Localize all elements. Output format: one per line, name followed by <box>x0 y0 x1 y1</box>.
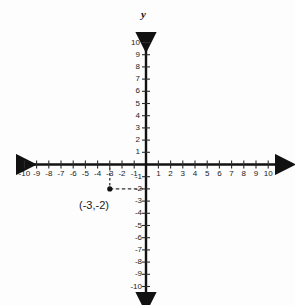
y-tick-label: -9 <box>135 270 142 278</box>
y-tick-label: 7 <box>136 75 140 83</box>
x-tick-label: -2 <box>118 170 125 178</box>
y-tick-label: -6 <box>135 234 142 242</box>
y-tick-label: -8 <box>135 258 142 266</box>
y-tick-label: 9 <box>136 51 140 59</box>
x-tick-label: 5 <box>205 170 209 178</box>
x-tick-label: 1 <box>156 170 160 178</box>
plotted-point-marker <box>107 186 112 191</box>
x-tick-label: 6 <box>217 170 221 178</box>
point-coordinate-label: (-3,-2) <box>79 199 109 211</box>
y-tick-label: 2 <box>136 136 140 144</box>
x-tick-label: 2 <box>168 170 172 178</box>
y-axis-label: y <box>141 8 146 20</box>
y-tick-label: 4 <box>136 112 140 120</box>
x-tick-label: -3 <box>106 170 113 178</box>
coordinate-plane-figure: y x -10 -9 -8 -7 -6 -5 -4 -3 -2 -1 1 2 3… <box>0 0 295 305</box>
x-tick-label: -5 <box>82 170 89 178</box>
x-tick-label: 8 <box>242 170 246 178</box>
y-tick-label: -4 <box>135 209 142 217</box>
graph-svg <box>0 0 295 305</box>
y-tick-label: 8 <box>136 63 140 71</box>
y-tick-label: -7 <box>135 246 142 254</box>
x-tick-label: -8 <box>45 170 52 178</box>
y-tick-label: 6 <box>136 87 140 95</box>
x-tick-label: 4 <box>193 170 197 178</box>
x-tick-label: -6 <box>70 170 77 178</box>
y-tick-label: -5 <box>135 222 142 230</box>
x-tick-label: 7 <box>229 170 233 178</box>
y-tick-label: 5 <box>136 100 140 108</box>
y-tick-label: 1 <box>136 148 140 156</box>
x-tick-label: 3 <box>181 170 185 178</box>
x-tick-label: -7 <box>57 170 64 178</box>
y-tick-label: -2 <box>135 185 142 193</box>
x-tick-label: 9 <box>254 170 258 178</box>
y-tick-label: -1 <box>135 173 142 181</box>
x-axis-label: x <box>283 156 289 168</box>
x-tick-label: -9 <box>33 170 40 178</box>
y-tick-label: 3 <box>136 124 140 132</box>
x-tick-label: -10 <box>19 170 31 178</box>
y-tick-label: -10 <box>130 283 142 291</box>
y-tick-label: -3 <box>135 197 142 205</box>
x-tick-label: -4 <box>94 170 101 178</box>
y-tick-label: 10 <box>131 39 140 47</box>
x-tick-label: 10 <box>264 170 273 178</box>
